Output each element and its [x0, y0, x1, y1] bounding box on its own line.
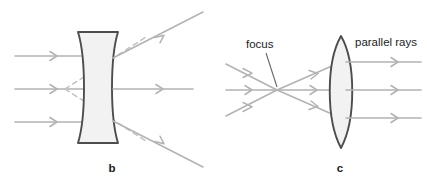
panel-c-outgoing-rays — [346, 58, 421, 123]
panel-b: b — [15, 12, 203, 174]
focus-label-leader-line — [266, 53, 277, 87]
concave-lens — [78, 32, 118, 143]
panel-c-incoming-rays — [226, 64, 277, 116]
panel-c-letter: c — [337, 162, 344, 174]
top-incoming-ray — [226, 64, 277, 90]
panel-b-outgoing-rays — [113, 12, 203, 167]
diagram-canvas: b — [0, 0, 427, 183]
focus-label: focus — [246, 38, 274, 50]
lens-ray-diagram-figure: b — [0, 0, 427, 183]
convex-lens — [330, 36, 353, 148]
bottom-incoming-ray — [226, 90, 277, 116]
bottom-diverging-ray — [113, 121, 203, 167]
panel-c: focus parallel rays c — [226, 36, 421, 174]
parallel-rays-label: parallel rays — [355, 36, 417, 48]
top-diverging-ray — [113, 12, 203, 58]
panel-b-incoming-rays — [15, 52, 87, 127]
panel-b-letter: b — [108, 162, 115, 174]
